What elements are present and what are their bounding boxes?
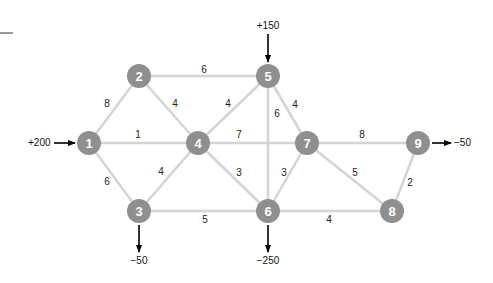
node-5: 5 (256, 64, 280, 88)
node-1: 1 (77, 131, 101, 155)
edge-1-3 (89, 143, 139, 211)
node-9: 9 (406, 131, 430, 155)
node-label-2: 2 (135, 69, 142, 84)
node-label-7: 7 (303, 136, 310, 151)
node-label-8: 8 (388, 204, 395, 219)
edge-weight-7-9: 8 (359, 129, 365, 140)
node-6: 6 (256, 199, 280, 223)
node-4: 4 (186, 131, 210, 155)
edge-7-8 (307, 143, 392, 211)
edge-weight-2-4: 4 (172, 98, 178, 109)
edge-weight-5-6: 6 (274, 108, 280, 119)
node-label-5: 5 (264, 69, 271, 84)
supply-label-node-5: +150 (257, 20, 280, 31)
edge-weight-7-8: 5 (352, 167, 358, 178)
edge-weight-6-8: 4 (326, 214, 332, 225)
edge-3-4 (139, 143, 198, 211)
demand-label-node-3: −50 (131, 255, 148, 266)
edge-2-4 (139, 76, 198, 143)
edge-weight-1-2: 8 (104, 98, 110, 109)
edge-weight-1-3: 6 (104, 176, 110, 187)
edge-4-5 (198, 76, 268, 143)
node-label-6: 6 (264, 204, 271, 219)
edge-4-6 (198, 143, 268, 211)
edges-layer (89, 76, 418, 211)
demand-label-node-6: −250 (257, 255, 280, 266)
node-7: 7 (295, 131, 319, 155)
edge-weight-4-6: 3 (236, 167, 242, 178)
node-3: 3 (127, 199, 151, 223)
supply-label-node-1: +200 (28, 137, 51, 148)
node-label-1: 1 (85, 136, 92, 151)
node-label-4: 4 (194, 136, 202, 151)
edge-1-2 (89, 76, 139, 143)
node-label-9: 9 (414, 136, 421, 151)
node-8: 8 (380, 199, 404, 223)
edge-weight-5-7: 4 (292, 99, 298, 110)
edge-weight-1-4: 1 (135, 129, 141, 140)
node-label-3: 3 (135, 204, 142, 219)
edge-weight-3-4: 4 (158, 166, 164, 177)
edge-weight-3-6: 5 (202, 214, 208, 225)
edge-weight-4-5: 4 (225, 98, 231, 109)
edge-weight-8-9: 2 (407, 177, 413, 188)
network-diagram: 81664454736434852 +200+150−50−250−50 123… (0, 0, 493, 283)
edge-weight-6-7: 3 (281, 167, 287, 178)
demand-label-node-9: −50 (454, 137, 471, 148)
edge-weight-4-7: 7 (236, 129, 242, 140)
edge-weight-2-5: 6 (201, 64, 207, 75)
node-2: 2 (127, 64, 151, 88)
